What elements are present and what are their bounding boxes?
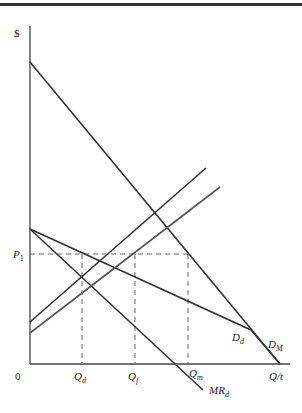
supply-curve-upper — [30, 168, 206, 322]
price-label: P1 — [12, 248, 24, 263]
qd-label: Qd — [74, 370, 87, 385]
marginal-revenue-curve — [30, 229, 203, 390]
qf-label: Qf — [128, 370, 140, 385]
origin-label: 0 — [15, 370, 21, 382]
dominant-firm-diagram: $ 0 P1 Qd Qf Qm Q/t Dd DM MRd — [0, 0, 302, 413]
marginal-revenue-label: MRd — [208, 384, 230, 399]
y-axis-label: $ — [14, 27, 20, 39]
x-axis-label: Q/t — [269, 370, 284, 382]
dominant-demand-label: Dd — [231, 331, 245, 346]
supply-curve-lower — [30, 187, 220, 333]
